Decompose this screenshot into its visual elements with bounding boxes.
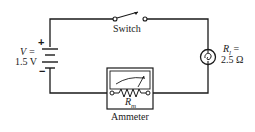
battery-minus-sign: − — [39, 66, 45, 76]
wire-bottom-left — [50, 72, 109, 93]
battery-plus-sign: + — [38, 37, 44, 47]
wire-right-lower — [151, 65, 208, 93]
lamp-symbol — [201, 49, 216, 65]
switch-label: Switch — [113, 24, 141, 34]
lamp-resistance-value: 2.5 Ω — [221, 55, 243, 65]
ammeter-resistance-symbol: Rm — [125, 97, 136, 111]
wire-top-right — [147, 19, 208, 49]
wire-top-left — [50, 19, 113, 47]
switch-symbol — [113, 12, 147, 21]
battery-voltage-value: 1.5 V — [15, 57, 37, 67]
lamp-symbol-equals: = — [231, 43, 239, 54]
ammeter-symbol-sub: m — [131, 102, 136, 110]
ammeter-label: Ammeter — [111, 112, 149, 122]
